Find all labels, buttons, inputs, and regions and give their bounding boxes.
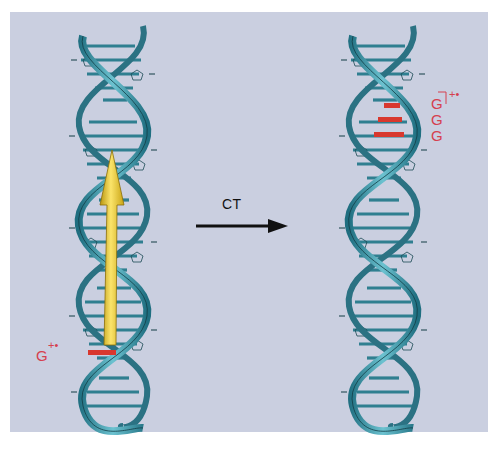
- charge-transfer-arrow: [196, 219, 288, 233]
- right-g-label-2: G: [431, 112, 443, 127]
- left-radical-cation-label: +•: [48, 340, 58, 351]
- right-radical-cation-label: +•: [449, 89, 459, 100]
- ct-label: CT: [222, 196, 242, 212]
- left-oxidized-guanine: [88, 350, 116, 355]
- right-g-label-3: G: [431, 128, 443, 143]
- dna-diagram: [0, 0, 499, 451]
- right-g-label-1: G: [431, 96, 443, 111]
- right-dna-helix: [339, 26, 427, 431]
- left-g-label: G: [36, 348, 48, 363]
- right-oxidized-guanines: [374, 103, 404, 137]
